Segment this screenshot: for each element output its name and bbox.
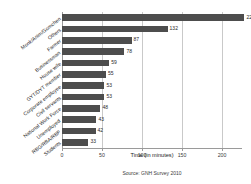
bar-value-label: 87: [132, 36, 140, 42]
axis-tick: [142, 148, 143, 151]
bar-value-label: 42: [96, 127, 104, 133]
bar: [62, 128, 96, 135]
source-note: Source: GNH Survey 2010: [62, 170, 242, 176]
bar-row: 43: [62, 116, 242, 123]
bar: [62, 139, 88, 146]
bar-value-label: 59: [109, 59, 117, 65]
bar: [62, 116, 96, 123]
bar-row: 53: [62, 82, 242, 89]
axis-tick: [102, 148, 103, 151]
bar: [62, 37, 132, 44]
bar: [62, 60, 109, 67]
bar-row: 53: [62, 94, 242, 101]
category-axis-labels: Monk/Anim/GomchenOthersFarmerBusinessman…: [0, 12, 60, 148]
bar-row: 59: [62, 60, 242, 67]
bar-row: 228: [62, 14, 242, 21]
bar-value-label: 228: [244, 14, 251, 20]
x-axis-title: Time (in minutes): [62, 152, 242, 158]
bar: [62, 94, 104, 101]
axis-tick: [222, 148, 223, 151]
bar-row: 78: [62, 48, 242, 55]
chart-container: Monk/Anim/GomchenOthersFarmerBusinessman…: [0, 0, 251, 184]
bar-row: 55: [62, 71, 242, 78]
bar-value-label: 48: [100, 104, 108, 110]
plot-area: 22813287785955535348434233 050100150200: [62, 12, 242, 148]
bar: [62, 26, 168, 33]
bar-row: 48: [62, 105, 242, 112]
bar-value-label: 43: [96, 116, 104, 122]
bar-value-label: 53: [104, 93, 112, 99]
axis-tick: [182, 148, 183, 151]
bar: [62, 82, 104, 89]
bar: [62, 14, 244, 21]
bar-row: 87: [62, 37, 242, 44]
bar-value-label: 78: [124, 48, 132, 54]
bar-value-label: 33: [88, 138, 96, 144]
bar: [62, 71, 106, 78]
bar-row: 33: [62, 139, 242, 146]
bar: [62, 48, 124, 55]
value-axis-line: [62, 148, 242, 149]
bar-value-label: 132: [168, 25, 178, 31]
axis-tick: [62, 148, 63, 151]
bar-value-label: 53: [104, 82, 112, 88]
bar-row: 132: [62, 26, 242, 33]
bar-value-label: 55: [106, 70, 114, 76]
bar-row: 42: [62, 128, 242, 135]
bar: [62, 105, 100, 112]
